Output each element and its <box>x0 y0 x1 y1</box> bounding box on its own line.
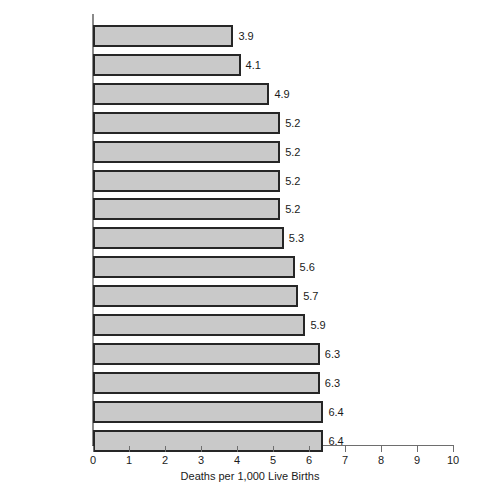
x-axis-tick <box>237 446 238 452</box>
bar <box>93 430 323 452</box>
x-axis-tick <box>381 446 382 452</box>
bar-value-label: 6.3 <box>325 372 340 394</box>
x-axis-tick <box>417 446 418 452</box>
bar-value-label: 5.2 <box>285 198 300 220</box>
x-axis-tick-label: 7 <box>330 453 360 467</box>
bar-value-label: 5.7 <box>303 285 318 307</box>
x-axis-tick <box>345 446 346 452</box>
x-axis-title-text: Deaths per 1,000 Live Births <box>181 470 320 482</box>
bar-value-label: 5.2 <box>285 141 300 163</box>
x-axis-tick-label: 2 <box>150 453 180 467</box>
x-axis-tick <box>129 446 130 452</box>
bar-value-label: 6.4 <box>328 401 343 423</box>
bar-value-label: 6.3 <box>325 343 340 365</box>
bar <box>93 401 323 423</box>
bar <box>93 170 280 192</box>
x-axis-tick <box>453 446 454 452</box>
bar-value-label: 5.2 <box>285 112 300 134</box>
x-axis-tick-label: 5 <box>258 453 288 467</box>
bar <box>93 372 320 394</box>
bar <box>93 83 269 105</box>
x-axis-tick-label: 10 <box>438 453 468 467</box>
bar <box>93 141 280 163</box>
x-axis-tick-label: 0 <box>78 453 108 467</box>
x-axis-title: Deaths per 1,000 Live Births <box>0 470 478 482</box>
bar <box>93 54 241 76</box>
x-axis-tick-label: 9 <box>402 453 432 467</box>
bar-chart: Sweden3.9Japan4.1Switzerland4.9Hong Kong… <box>0 0 478 498</box>
bar-value-label: 4.1 <box>246 54 261 76</box>
x-axis-tick-label: 6 <box>294 453 324 467</box>
bar <box>93 285 298 307</box>
bar-value-label: 5.6 <box>300 256 315 278</box>
x-axis-tick-label: 8 <box>366 453 396 467</box>
bar <box>93 198 280 220</box>
bar <box>93 314 305 336</box>
x-axis-tick <box>309 446 310 452</box>
x-axis-tick <box>273 446 274 452</box>
bar <box>93 256 295 278</box>
bar-value-label: 6.4 <box>328 430 343 452</box>
bar-value-label: 5.3 <box>289 227 304 249</box>
plot-area: Sweden3.9Japan4.1Switzerland4.9Hong Kong… <box>0 0 478 498</box>
x-axis-tick <box>165 446 166 452</box>
x-axis-tick <box>93 446 94 452</box>
bar <box>93 227 284 249</box>
bar-value-label: 5.9 <box>310 314 325 336</box>
bar <box>93 25 233 47</box>
bar-value-label: 4.9 <box>274 83 289 105</box>
x-axis-tick-label: 3 <box>186 453 216 467</box>
bar <box>93 343 320 365</box>
x-axis-tick <box>201 446 202 452</box>
bar <box>93 112 280 134</box>
x-axis-tick-label: 4 <box>222 453 252 467</box>
bar-value-label: 3.9 <box>238 25 253 47</box>
x-axis-tick-label: 1 <box>114 453 144 467</box>
bar-value-label: 5.2 <box>285 170 300 192</box>
